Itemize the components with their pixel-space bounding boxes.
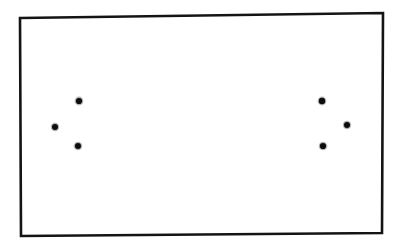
right-bottom-dot: [320, 143, 326, 149]
dot-pattern-figure: [0, 0, 403, 252]
figure-container: [0, 0, 403, 252]
right-top-dot: [319, 98, 325, 104]
left-outer-dot: [52, 124, 58, 130]
right-outer-dot: [344, 122, 350, 128]
rectangular-frame: [20, 13, 383, 236]
left-bottom-dot: [75, 143, 81, 149]
left-top-dot: [76, 98, 82, 104]
